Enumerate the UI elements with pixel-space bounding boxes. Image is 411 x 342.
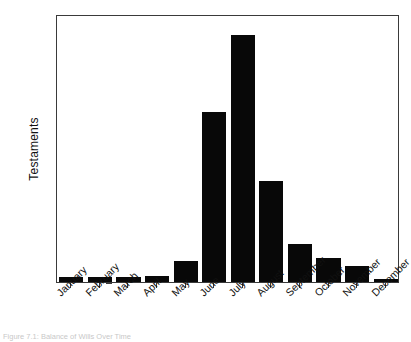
bar	[202, 112, 226, 282]
figure-caption: Figure 7.1: Balance of Wills Over Time	[3, 332, 131, 342]
bar	[259, 181, 283, 282]
bar	[231, 35, 255, 282]
bar-series	[57, 16, 398, 282]
y-axis-title: Testaments	[27, 117, 41, 180]
plot-area	[56, 15, 399, 283]
